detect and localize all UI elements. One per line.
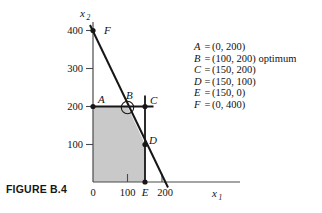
y-tick-label-100: 100 xyxy=(67,139,83,150)
legend-row-E: E=(150, 0) xyxy=(194,87,296,99)
legend-equals-D: = xyxy=(203,76,212,88)
y-tick-label-300: 300 xyxy=(67,63,83,74)
y-axis-label-subscript: 2 xyxy=(87,13,91,22)
x-axis-label-subscript: 1 xyxy=(219,193,223,202)
point-dot-C xyxy=(142,104,147,109)
point-legend: A=(0, 200) B=(100, 200) optimum C=(150, … xyxy=(194,41,296,111)
point-dot-A xyxy=(90,104,95,109)
point-label-A: A xyxy=(97,93,105,105)
legend-point-value-E: (150, 0) xyxy=(212,87,245,98)
legend-equals-A: = xyxy=(203,41,212,53)
legend-row-D: D=(150, 100) xyxy=(194,76,296,88)
x-axis-label: x xyxy=(211,187,217,199)
legend-row-C: C=(150, 200) xyxy=(194,64,296,76)
point-label-C: C xyxy=(150,94,158,106)
legend-point-name-A: A xyxy=(194,41,203,53)
feasible-region-shading xyxy=(93,107,145,183)
figure-caption: FIGURE B.4 xyxy=(6,183,67,195)
point-label-F: F xyxy=(103,24,111,36)
legend-row-A: A=(0, 200) xyxy=(194,41,296,53)
x-tick-label-0: 0 xyxy=(90,187,95,198)
legend-point-name-D: D xyxy=(194,76,203,88)
legend-point-value-C: (150, 200) xyxy=(212,64,256,75)
legend-equals-C: = xyxy=(203,64,212,76)
legend-point-name-C: C xyxy=(194,64,203,76)
point-dot-D xyxy=(142,142,147,147)
legend-point-name-F: F xyxy=(194,99,203,111)
legend-point-value-F: (0, 400) xyxy=(212,99,245,110)
legend-equals-B: = xyxy=(203,53,212,65)
y-tick-label-200: 200 xyxy=(67,101,83,112)
legend-point-name-E: E xyxy=(194,87,203,99)
y-tick-label-400: 400 xyxy=(67,25,83,36)
legend-point-name-B: B xyxy=(194,53,203,65)
x-tick-label-200: 200 xyxy=(157,187,173,198)
legend-point-value-B: (100, 200) xyxy=(212,53,256,64)
legend-row-F: F=(0, 400) xyxy=(194,99,296,111)
figure-b4: 400 300 200 100 0 100 200 F A B C D E x … xyxy=(0,0,322,213)
y-axis-label: x xyxy=(79,7,85,19)
legend-row-B: B=(100, 200) optimum xyxy=(194,53,296,65)
legend-point-note-B: optimum xyxy=(256,53,297,64)
point-dot-F xyxy=(90,28,95,33)
point-dot-E xyxy=(142,179,147,184)
legend-equals-F: = xyxy=(203,99,212,111)
legend-point-value-A: (0, 200) xyxy=(212,41,245,52)
point-label-E: E xyxy=(141,186,149,198)
legend-point-value-D: (150, 100) xyxy=(212,76,256,87)
point-label-B: B xyxy=(126,89,133,101)
x-tick-label-100: 100 xyxy=(120,187,136,198)
point-label-D: D xyxy=(148,134,157,146)
legend-equals-E: = xyxy=(203,87,212,99)
